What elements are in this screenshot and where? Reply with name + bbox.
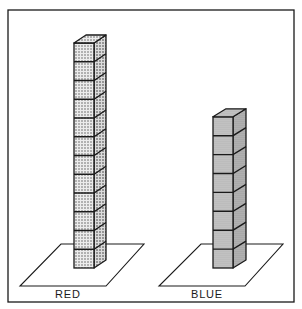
red-label: RED <box>55 288 81 300</box>
blue-tower <box>213 109 246 268</box>
cube-towers-diagram: RED BLUE <box>0 0 302 309</box>
red-tower <box>74 35 106 268</box>
blue-label: BLUE <box>191 288 223 300</box>
